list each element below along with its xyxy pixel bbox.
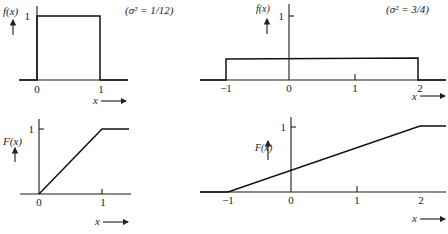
x-tick-1: 1 xyxy=(352,82,358,94)
y-label: f(x) xyxy=(3,5,19,18)
pdf-curve xyxy=(200,58,446,80)
variance-annotation: (σ² = 3/4) xyxy=(386,3,429,16)
panel-bottom-right-cdf: 1 −1 0 1 2 F(x) x xyxy=(200,117,446,224)
x-tick-1: 1 xyxy=(98,83,104,95)
y-tick-1: 1 xyxy=(281,121,287,133)
y-tick-1: 1 xyxy=(29,123,35,135)
y-label: F(x) xyxy=(2,135,22,148)
x-tick-2: 2 xyxy=(418,194,424,206)
y-tick-1: 1 xyxy=(279,10,285,22)
x-label: x xyxy=(92,94,98,106)
x-label: x xyxy=(411,212,417,224)
panel-top-left-pdf: 1 0 1 f(x) x (σ² = 1/12) xyxy=(3,4,174,106)
y-label: f(x) xyxy=(256,3,271,15)
cdf-curve xyxy=(39,129,129,194)
y-label: F(x) xyxy=(254,142,273,154)
x-tick-1: 1 xyxy=(354,194,360,206)
panel-top-right-pdf: 1 −1 0 1 2 f(x) x (σ² = 3/4) xyxy=(200,3,446,102)
figure-canvas: 1 0 1 f(x) x (σ² = 1/12) 1 0 1 F(x) x 1 … xyxy=(0,0,448,234)
panel-bottom-left-cdf: 1 0 1 F(x) x xyxy=(2,119,131,227)
y-tick-1: 1 xyxy=(25,10,31,22)
x-tick-0: 0 xyxy=(36,196,42,208)
x-tick-neg1: −1 xyxy=(222,194,234,206)
x-tick-neg1: −1 xyxy=(220,82,232,94)
cdf-curve xyxy=(200,126,446,192)
x-tick-0: 0 xyxy=(288,194,294,206)
x-tick-2: 2 xyxy=(417,82,423,94)
pdf-curve xyxy=(19,16,128,80)
variance-annotation: (σ² = 1/12) xyxy=(125,4,174,17)
x-tick-1: 1 xyxy=(100,196,106,208)
x-tick-0: 0 xyxy=(34,83,40,95)
x-tick-0: 0 xyxy=(286,82,292,94)
x-label: x xyxy=(94,215,100,227)
x-label: x xyxy=(411,90,417,102)
